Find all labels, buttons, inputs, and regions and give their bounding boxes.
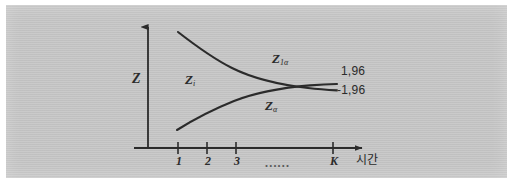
curve-label-lower-subscript: α bbox=[273, 105, 277, 114]
lower-boundary-value: -1,96 bbox=[337, 84, 365, 96]
x-tick-label-2: 2 bbox=[202, 155, 214, 167]
x-tick-label-1: 1 bbox=[173, 155, 185, 167]
curve-label-upper-base: Z bbox=[272, 51, 280, 66]
x-axis-ellipsis: ...... bbox=[265, 157, 290, 169]
lower-boundary-curve bbox=[177, 84, 337, 130]
upper-boundary-value: 1,96 bbox=[341, 65, 365, 77]
curve-label-upper-subscript: 1α bbox=[280, 58, 288, 67]
sequential-boundary-plot bbox=[0, 0, 514, 184]
figure-canvas: Z Zi Z1α Zα 1,96 -1,96 1 2 3 ...... K 시간 bbox=[0, 0, 514, 184]
curve-label-lower: Zα bbox=[265, 99, 277, 114]
x-tick-label-3: 3 bbox=[231, 155, 243, 167]
curve-label-lower-base: Z bbox=[265, 98, 273, 113]
x-tick-label-k: K bbox=[328, 155, 340, 167]
curve-label-zi: Zi bbox=[185, 73, 195, 88]
curve-label-zi-base: Z bbox=[185, 72, 193, 87]
upper-boundary-curve bbox=[178, 32, 337, 90]
y-axis-title: Z bbox=[132, 72, 141, 86]
curve-label-upper: Z1α bbox=[272, 52, 288, 67]
curve-label-zi-subscript: i bbox=[193, 79, 195, 88]
x-axis-title: 시간 bbox=[356, 154, 378, 166]
